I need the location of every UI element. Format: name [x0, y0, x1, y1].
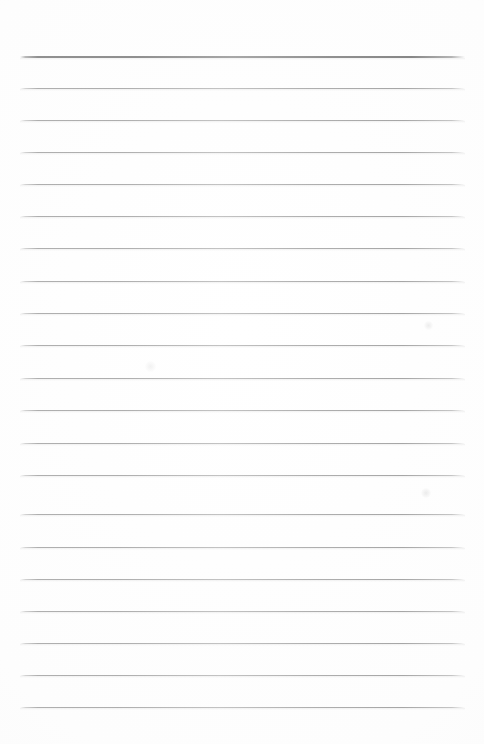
ruled-line [20, 410, 465, 411]
scanned-page [0, 0, 484, 744]
ruled-line [20, 643, 465, 644]
ruled-line [20, 443, 465, 444]
ruled-line [20, 281, 465, 282]
ruled-line [20, 378, 465, 379]
ruled-line [20, 675, 465, 676]
ruled-line [20, 88, 465, 89]
ruled-line [20, 345, 465, 346]
ruled-line [20, 248, 465, 249]
ruled-line [20, 152, 465, 153]
paper-texture [0, 0, 484, 744]
smudge-upper-right [424, 321, 433, 330]
ruled-line [20, 216, 465, 217]
smudge-lower-right [421, 488, 431, 498]
ruled-line [20, 707, 465, 708]
smudge-mid-left [145, 361, 156, 372]
ruled-line [20, 475, 465, 476]
ruled-line [20, 184, 465, 185]
ruled-line [20, 611, 465, 612]
ruled-line [20, 313, 465, 314]
ruled-line [20, 514, 465, 515]
ruled-line [20, 579, 465, 580]
ruled-line [20, 120, 465, 121]
header-rule [20, 56, 465, 58]
ruled-line [20, 547, 465, 548]
